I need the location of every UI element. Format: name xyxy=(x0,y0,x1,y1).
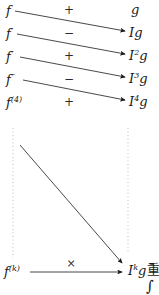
antiderivative-label-I4g: I4g xyxy=(129,95,148,108)
derivative-label-f: f xyxy=(6,4,11,17)
sign-row-4: − xyxy=(62,73,76,85)
sign-row-1: + xyxy=(62,4,76,16)
final-multiplication-operator: × xyxy=(64,258,78,269)
derivative-label-f-prime: f′ xyxy=(6,27,13,40)
trailing-integral-fragment: ∫ xyxy=(146,279,154,294)
derivative-label-f-kth: f(k) xyxy=(4,265,20,278)
derivative-label-f-triple-prime: f‴ xyxy=(6,73,15,86)
antiderivative-label-I2g: I2g xyxy=(129,49,148,62)
antiderivative-label-Ig: Ig xyxy=(129,26,142,39)
diagram-lines-layer xyxy=(0,0,159,295)
antiderivative-label-I3g: I3g xyxy=(129,72,148,85)
product-arrow-final-diagonal xyxy=(20,145,122,263)
sign-row-5: + xyxy=(62,96,76,108)
sign-row-3: + xyxy=(62,50,76,62)
derivative-label-f-double-prime: f″ xyxy=(6,50,14,63)
antiderivative-label-Ikg: Ikg xyxy=(128,264,146,277)
trailing-cjk-fragment: 重 xyxy=(147,263,159,276)
tabular-integration-figure: f f′ f″ f‴ f(4) f(k) g Ig I2g I3g I4g Ik… xyxy=(0,0,159,295)
antiderivative-label-g: g xyxy=(131,3,139,16)
sign-row-2: − xyxy=(62,27,76,39)
derivative-label-f-fourth: f(4) xyxy=(6,96,22,109)
